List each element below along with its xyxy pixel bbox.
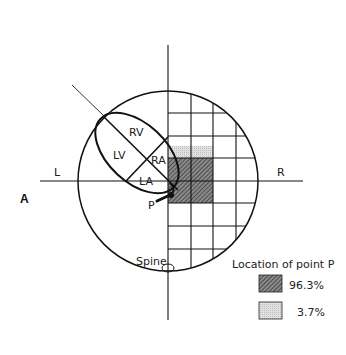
spine-label: Spine (136, 255, 167, 268)
chamber-label-ra: RA (151, 154, 166, 167)
point-p-label: P (148, 199, 155, 212)
chamber-label-rv: RV (129, 126, 144, 139)
thoracic-cross-section-diagram: L R A RV LV RA LA P Spine Location of po… (0, 0, 346, 355)
left-axis-label: L (54, 166, 61, 179)
legend-title: Location of point P (232, 258, 335, 271)
right-axis-label: R (277, 166, 285, 179)
legend-item-light-label: 3.7% (297, 306, 325, 319)
legend-swatch-dark (259, 275, 282, 292)
panel-label: A (20, 192, 29, 206)
legend-item-dark-label: 96.3% (289, 279, 324, 292)
legend: Location of point P 96.3% 3.7% (232, 258, 335, 319)
chamber-label-lv: LV (113, 149, 126, 162)
chamber-label-la: LA (139, 175, 153, 188)
cardiac-long-axis-line (72, 85, 104, 116)
legend-swatch-light (259, 302, 282, 319)
